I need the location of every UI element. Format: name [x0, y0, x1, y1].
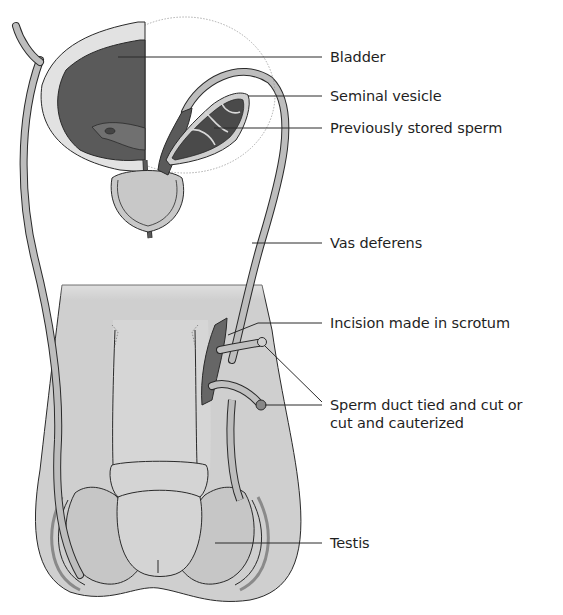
- prostate: [111, 171, 184, 233]
- shaft: [111, 320, 211, 470]
- label-previously-stored-sperm: Previously stored sperm: [330, 119, 502, 137]
- label-testis: Testis: [330, 534, 370, 552]
- label-sperm-duct: Sperm duct tied and cut or cut and caute…: [330, 396, 530, 432]
- vasectomy-diagram: Bladder Seminal vesicle Previously store…: [0, 0, 563, 615]
- label-bladder: Bladder: [330, 48, 385, 66]
- bladder: [41, 22, 145, 172]
- label-vas-deferens: Vas deferens: [330, 234, 422, 252]
- label-incision: Incision made in scrotum: [330, 314, 510, 332]
- label-seminal-vesicle: Seminal vesicle: [330, 87, 442, 105]
- seminal-vesicle: [158, 93, 249, 175]
